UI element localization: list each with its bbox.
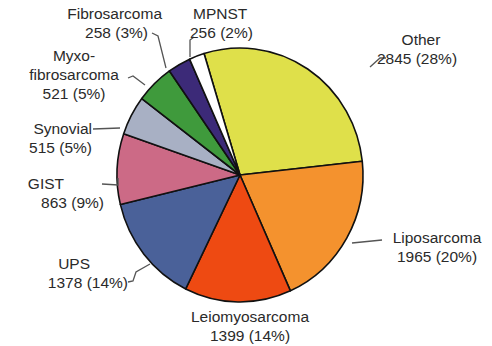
label-leiomyosarcoma-value: 1399 (14%) xyxy=(175,326,325,345)
label-other-value: 2845 (28%) xyxy=(338,49,492,68)
label-myxo-value: 521 (5%) xyxy=(18,84,130,103)
label-other: Other 2845 (28%) xyxy=(346,30,492,68)
label-synovial-name: Synovial xyxy=(0,119,92,138)
pie-slices xyxy=(117,48,363,302)
label-gist: GIST 863 (9%) xyxy=(0,174,104,212)
label-leiomyosarcoma-name: Leiomyosarcoma xyxy=(175,307,325,326)
label-gist-value: 863 (9%) xyxy=(0,193,104,212)
label-liposarcoma: Liposarcoma 1965 (20%) xyxy=(382,228,492,266)
label-synovial: Synovial 515 (5%) xyxy=(0,119,92,157)
label-fibrosarcoma-name: Fibrosarcoma xyxy=(30,4,162,23)
label-gist-name: GIST xyxy=(0,174,104,193)
label-myxo-name1: Myxo- xyxy=(18,46,130,65)
label-ups: UPS 1378 (14%) xyxy=(0,254,128,292)
label-myxo-name2: fibrosarcoma xyxy=(18,65,130,84)
label-mpnst: MPNST 256 (2%) xyxy=(190,4,253,42)
label-myxofibrosarcoma: Myxo- fibrosarcoma 521 (5%) xyxy=(18,46,130,103)
label-leiomyosarcoma: Leiomyosarcoma 1399 (14%) xyxy=(175,307,325,345)
label-fibrosarcoma-value: 258 (3%) xyxy=(30,23,162,42)
label-ups-value: 1378 (14%) xyxy=(0,273,128,292)
label-fibrosarcoma: Fibrosarcoma 258 (3%) xyxy=(30,4,162,42)
label-liposarcoma-value: 1965 (20%) xyxy=(382,247,492,266)
label-ups-name: UPS xyxy=(0,254,128,273)
label-other-name: Other xyxy=(346,30,492,49)
label-mpnst-value: 256 (2%) xyxy=(190,23,253,42)
label-mpnst-name: MPNST xyxy=(190,4,253,23)
label-liposarcoma-name: Liposarcoma xyxy=(382,228,492,247)
label-synovial-value: 515 (5%) xyxy=(0,138,92,157)
